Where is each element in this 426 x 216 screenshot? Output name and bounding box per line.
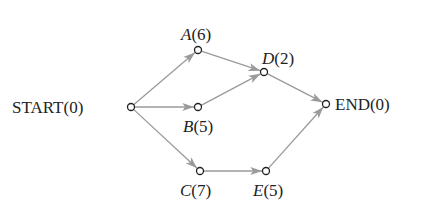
node-label-d: D(2): [261, 49, 294, 68]
node-label-a: A(6): [180, 25, 211, 44]
node-d: [261, 69, 268, 76]
edge-d-end: [267, 74, 322, 103]
node-label-e: E(5): [252, 181, 283, 200]
edge-start-a: [134, 53, 195, 105]
edge-e-end: [268, 107, 323, 168]
edge-a-d: [201, 51, 260, 71]
node-label-end: END(0): [335, 95, 390, 114]
edges: [134, 51, 324, 171]
activity-network-diagram: START(0) A(6) B(5) C(7) D(2) E(5) END(0): [0, 0, 426, 216]
node-label-b: B(5): [183, 117, 213, 136]
node-label-c: C(7): [180, 181, 211, 200]
node-b: [195, 104, 202, 111]
node-a: [195, 47, 202, 54]
nodes: [128, 47, 330, 175]
node-start: [128, 104, 135, 111]
node-c: [197, 168, 204, 175]
node-e: [263, 168, 270, 175]
node-label-start: START(0): [12, 98, 83, 117]
node-end: [323, 101, 330, 108]
edge-b-d: [201, 74, 260, 105]
